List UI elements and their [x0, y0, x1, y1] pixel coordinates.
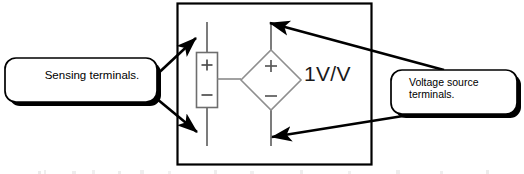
- callout-voltage-source-box: [391, 70, 517, 114]
- callout-sensing[interactable]: [5, 58, 161, 106]
- gain-value-label: 1V/V: [304, 62, 351, 86]
- schematic-svg: [0, 0, 524, 174]
- diagram-canvas: Sensing terminals. Voltage source termin…: [0, 0, 524, 174]
- clipped-text-artifacts: [38, 170, 489, 174]
- callout-sensing-box: [5, 58, 157, 102]
- callout-voltage-source[interactable]: [391, 70, 521, 118]
